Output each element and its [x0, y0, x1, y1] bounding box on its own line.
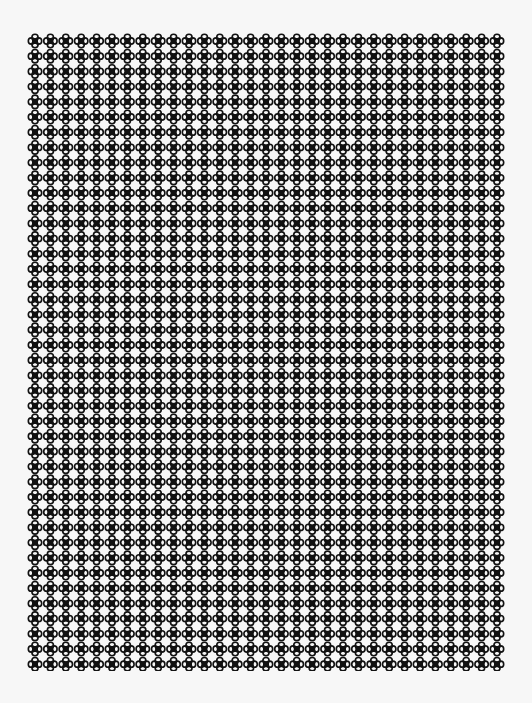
quatrefoil-icon: [490, 171, 503, 184]
quatrefoil-icon: [460, 202, 473, 215]
quatrefoil-icon: [198, 293, 211, 306]
quatrefoil-icon: [398, 34, 411, 47]
quatrefoil-icon: [398, 658, 411, 671]
quatrefoil-icon: [398, 521, 411, 534]
quatrefoil-icon: [136, 323, 149, 336]
quatrefoil-icon: [167, 430, 180, 443]
quatrefoil-icon: [352, 414, 365, 427]
quatrefoil-icon: [90, 384, 103, 397]
quatrefoil-icon: [167, 34, 180, 47]
quatrefoil-icon: [306, 141, 319, 154]
quatrefoil-icon: [367, 338, 380, 351]
quatrefoil-icon: [490, 384, 503, 397]
quatrefoil-icon: [244, 536, 257, 549]
quatrefoil-icon: [167, 308, 180, 321]
quatrefoil-icon: [59, 475, 72, 488]
quatrefoil-icon: [59, 141, 72, 154]
quatrefoil-icon: [244, 247, 257, 260]
quatrefoil-icon: [429, 65, 442, 78]
quatrefoil-icon: [306, 445, 319, 458]
quatrefoil-icon: [444, 642, 457, 655]
quatrefoil-icon: [152, 323, 165, 336]
quatrefoil-icon: [198, 217, 211, 230]
quatrefoil-icon: [306, 627, 319, 640]
quatrefoil-icon: [198, 384, 211, 397]
quatrefoil-icon: [28, 536, 41, 549]
quatrefoil-icon: [59, 551, 72, 564]
quatrefoil-icon: [383, 34, 396, 47]
quatrefoil-icon: [413, 597, 426, 610]
quatrefoil-icon: [490, 293, 503, 306]
quatrefoil-icon: [336, 551, 349, 564]
quatrefoil-icon: [306, 186, 319, 199]
quatrefoil-icon: [398, 582, 411, 595]
quatrefoil-icon: [244, 445, 257, 458]
quatrefoil-icon: [444, 414, 457, 427]
quatrefoil-icon: [460, 597, 473, 610]
quatrefoil-icon: [367, 460, 380, 473]
quatrefoil-icon: [475, 262, 488, 275]
quatrefoil-icon: [152, 338, 165, 351]
quatrefoil-icon: [75, 110, 88, 123]
quatrefoil-icon: [182, 186, 195, 199]
quatrefoil-icon: [121, 293, 134, 306]
quatrefoil-icon: [444, 293, 457, 306]
quatrefoil-icon: [336, 34, 349, 47]
quatrefoil-icon: [121, 202, 134, 215]
quatrefoil-icon: [167, 536, 180, 549]
quatrefoil-icon: [136, 627, 149, 640]
quatrefoil-icon: [182, 308, 195, 321]
quatrefoil-icon: [44, 156, 57, 169]
quatrefoil-icon: [136, 338, 149, 351]
quatrefoil-icon: [444, 384, 457, 397]
quatrefoil-icon: [44, 430, 57, 443]
quatrefoil-icon: [383, 506, 396, 519]
quatrefoil-icon: [167, 262, 180, 275]
quatrefoil-icon: [460, 384, 473, 397]
quatrefoil-icon: [352, 50, 365, 63]
quatrefoil-icon: [213, 110, 226, 123]
quatrefoil-icon: [105, 399, 118, 412]
quatrefoil-icon: [59, 186, 72, 199]
quatrefoil-icon: [306, 430, 319, 443]
quatrefoil-icon: [121, 536, 134, 549]
quatrefoil-icon: [213, 506, 226, 519]
quatrefoil-icon: [367, 171, 380, 184]
quatrefoil-icon: [321, 460, 334, 473]
quatrefoil-icon: [152, 597, 165, 610]
quatrefoil-icon: [336, 566, 349, 579]
quatrefoil-icon: [336, 627, 349, 640]
quatrefoil-icon: [90, 658, 103, 671]
quatrefoil-icon: [306, 460, 319, 473]
quatrefoil-icon: [90, 445, 103, 458]
quatrefoil-icon: [290, 399, 303, 412]
quatrefoil-icon: [367, 445, 380, 458]
quatrefoil-icon: [229, 551, 242, 564]
quatrefoil-icon: [182, 171, 195, 184]
quatrefoil-icon: [90, 156, 103, 169]
quatrefoil-icon: [44, 597, 57, 610]
quatrefoil-icon: [429, 338, 442, 351]
quatrefoil-icon: [336, 95, 349, 108]
quatrefoil-icon: [90, 521, 103, 534]
quatrefoil-icon: [336, 460, 349, 473]
quatrefoil-icon: [275, 445, 288, 458]
quatrefoil-icon: [152, 445, 165, 458]
quatrefoil-icon: [167, 110, 180, 123]
quatrefoil-icon: [75, 430, 88, 443]
quatrefoil-icon: [413, 95, 426, 108]
quatrefoil-icon: [182, 506, 195, 519]
quatrefoil-icon: [367, 50, 380, 63]
quatrefoil-icon: [413, 232, 426, 245]
quatrefoil-icon: [229, 642, 242, 655]
quatrefoil-icon: [59, 95, 72, 108]
quatrefoil-icon: [152, 141, 165, 154]
quatrefoil-icon: [336, 262, 349, 275]
quatrefoil-icon: [244, 80, 257, 93]
quatrefoil-icon: [321, 247, 334, 260]
quatrefoil-icon: [75, 217, 88, 230]
quatrefoil-icon: [275, 399, 288, 412]
quatrefoil-icon: [198, 521, 211, 534]
quatrefoil-icon: [490, 217, 503, 230]
quatrefoil-icon: [290, 278, 303, 291]
